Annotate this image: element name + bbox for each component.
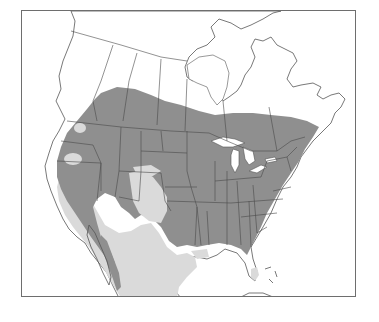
marginal-patch-oregon (74, 123, 86, 133)
range-map (21, 10, 356, 297)
hudson-bay (187, 55, 229, 105)
marginal-patch-great-basin (64, 153, 82, 165)
map-canvas (22, 11, 356, 297)
bahamas (265, 267, 277, 283)
cuba (239, 293, 273, 297)
